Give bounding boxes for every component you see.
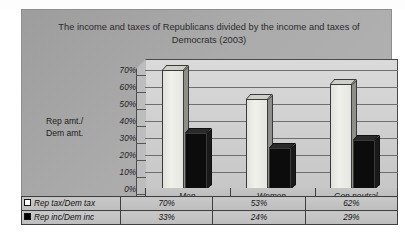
data-table: Rep tax/Dem tax70%53%62%Rep inc/Dem inc3… (21, 196, 398, 225)
legend-marker-solid-square-icon (24, 213, 31, 220)
chart-panel: The income and taxes of Republicans divi… (21, 9, 392, 201)
table-cell-value: 29% (305, 211, 397, 225)
table-cell-value: 33% (121, 211, 213, 225)
chart-title-line-1: The income and taxes of Republicans divi… (58, 22, 324, 32)
table-cell-value: 53% (213, 197, 305, 211)
table-row: Rep tax/Dem tax70%53%62% (22, 197, 398, 211)
bar-front-face (185, 133, 207, 189)
bar-rep-tax-dem-tax (246, 99, 268, 189)
chart-screenshot: • • • The income and taxes of Republican… (0, 0, 405, 251)
bar-group (229, 71, 313, 189)
y-tick-label: 10% (120, 168, 136, 177)
cut-off-text-ghost: • • • (60, 0, 76, 2)
y-tick-label: 60% (120, 83, 136, 92)
legend-marker-hollow-square-icon (24, 199, 31, 206)
y-tick-label: 20% (120, 151, 136, 160)
y-tick-label: 40% (120, 117, 136, 126)
bar-front-face (246, 99, 268, 189)
y-tick-label: 70% (120, 66, 136, 75)
table-cell-value: 24% (213, 211, 305, 225)
y-tick-label: 50% (120, 100, 136, 109)
bar-side-face (291, 144, 296, 189)
bar-group (145, 71, 229, 189)
bar-rep-tax-dem-tax (330, 84, 352, 189)
y-axis-tick-labels: 70%60%50%40%30%20%10%0% (108, 60, 136, 202)
bar-rep-tax-dem-tax (162, 70, 184, 189)
bar-group (314, 71, 398, 189)
y-axis-title-line-2: Dem amt. (46, 128, 112, 140)
y-tick-label: 0% (124, 185, 136, 194)
y-tick-label: 30% (120, 134, 136, 143)
bar-front-face (353, 140, 375, 189)
y-axis-title-line-1: Rep amt./ (46, 116, 112, 128)
scan-artifact-strip: • • • (0, 0, 405, 9)
legend-entry: Rep inc/Dem inc (22, 211, 121, 225)
legend-label: Rep inc/Dem inc (34, 213, 94, 222)
legend-label: Rep tax/Dem tax (34, 199, 95, 208)
bar-rep-inc-dem-inc (353, 140, 375, 189)
y-axis-title: Rep amt./ Dem amt. (46, 116, 112, 139)
bar-front-face (162, 70, 184, 189)
legend-entry: Rep tax/Dem tax (22, 197, 121, 211)
plot-area (136, 59, 398, 204)
bar-rep-inc-dem-inc (185, 133, 207, 189)
bar-groups (136, 59, 398, 201)
chart-title: The income and taxes of Republicans divi… (54, 21, 364, 47)
table-cell-value: 62% (305, 197, 397, 211)
bar-front-face (269, 148, 291, 189)
bar-side-face (375, 135, 380, 189)
bar-front-face (330, 84, 352, 189)
bar-side-face (207, 128, 212, 189)
table-cell-value: 70% (121, 197, 213, 211)
bar-rep-inc-dem-inc (269, 148, 291, 189)
table-row: Rep inc/Dem inc33%24%29% (22, 211, 398, 225)
